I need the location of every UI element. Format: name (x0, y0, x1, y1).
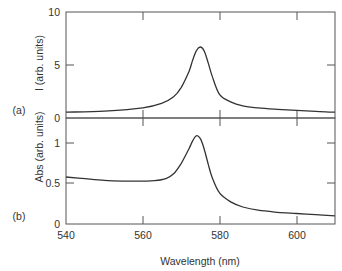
xtick-label-560: 560 (134, 229, 152, 241)
panel-b-frame (66, 118, 335, 224)
a-ytick-label-5: 5 (54, 59, 60, 71)
b-ytick-label-1: 1 (54, 137, 60, 149)
xtick-label-580: 580 (211, 229, 229, 241)
panel-label-a: (a) (13, 104, 26, 116)
x-axis-title: Wavelength (nm) (160, 255, 240, 267)
panel-a-frame (66, 12, 335, 118)
b-ytick-label-05: 0.5 (45, 177, 60, 189)
curve-a (66, 47, 335, 112)
panel-label-b: (b) (13, 210, 26, 222)
panel-b: 1 0.5 0 (45, 118, 335, 230)
a-ytick-label-10: 10 (48, 6, 60, 18)
xtick-label-540: 540 (57, 229, 75, 241)
a-ytick-label-0: 0 (54, 112, 60, 124)
y-axis-title-a: I (arb. units) (33, 35, 45, 91)
xtick-label-600: 600 (288, 229, 306, 241)
y-axis-title-b: Abs (arb. units) (33, 111, 45, 182)
panel-a: 10 5 0 (48, 6, 335, 124)
figure: 10 5 0 1 0.5 0 540 560 580 600 Wavelengt… (0, 0, 342, 271)
curve-b (66, 136, 335, 216)
